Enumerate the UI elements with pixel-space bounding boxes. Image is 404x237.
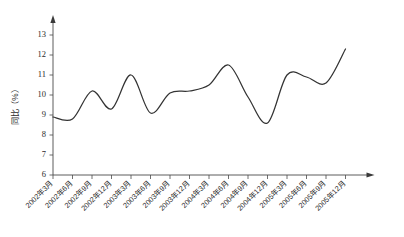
y-axis-title-text: 同比（%） xyxy=(10,85,20,124)
y-tick-label: 9 xyxy=(42,109,46,119)
x-axis-tick-labels: 2002年3月2002年6月2002年9月2002年12月2003年3月2003… xyxy=(24,179,347,213)
y-tick-label: 7 xyxy=(42,149,46,159)
y-tick-label: 13 xyxy=(38,29,47,39)
y-tick-label: 12 xyxy=(38,49,47,59)
data-series-line xyxy=(53,49,346,123)
chart-container: 678910111213 2002年3月2002年6月2002年9月2002年1… xyxy=(0,0,404,237)
y-axis-title: 同比（%） xyxy=(10,85,20,124)
y-tick-label: 10 xyxy=(38,89,47,99)
y-tick-label: 11 xyxy=(38,69,46,79)
x-axis-ticks xyxy=(53,175,346,179)
x-axis-arrow-icon xyxy=(367,172,375,177)
y-axis-tick-labels: 678910111213 xyxy=(38,29,47,179)
y-tick-label: 6 xyxy=(42,169,46,179)
y-tick-label: 8 xyxy=(42,129,46,139)
line-chart: 678910111213 2002年3月2002年6月2002年9月2002年1… xyxy=(0,0,404,237)
y-axis-arrow-icon xyxy=(50,15,55,23)
y-axis-ticks xyxy=(50,35,54,175)
